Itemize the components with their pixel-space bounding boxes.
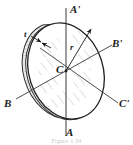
label-axis-c-prime: C': [119, 98, 129, 109]
label-axis-b: B: [4, 98, 11, 109]
label-axis-bottom: A: [66, 127, 73, 138]
label-radius: r: [70, 43, 74, 52]
label-axis-top: A': [70, 4, 80, 15]
figure-caption: Figure 1.34: [0, 138, 133, 145]
figure-container: A' A B' B C' C r t Figure 1.34: [0, 0, 133, 145]
label-axis-b-prime: B': [112, 38, 122, 49]
label-thickness: t: [24, 30, 27, 39]
center-point: [65, 70, 68, 73]
label-center: C: [56, 64, 63, 75]
disk-diagram-svg: [0, 0, 133, 145]
